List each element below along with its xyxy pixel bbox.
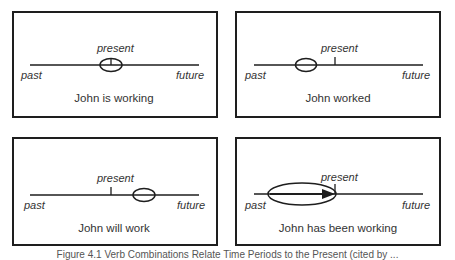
past-label: past: [245, 69, 266, 81]
sentence-present-perfect-progressive: John has been working: [279, 222, 397, 234]
present-label: present: [97, 42, 134, 54]
present-label: present: [321, 42, 358, 54]
future-label: future: [177, 199, 205, 211]
future-label: future: [402, 199, 430, 211]
future-label: future: [176, 69, 204, 81]
past-label: past: [21, 69, 42, 81]
future-label: future: [402, 69, 430, 81]
present-label: present: [97, 172, 134, 184]
sentence-simple-future: John will work: [78, 222, 150, 234]
past-label: past: [24, 199, 45, 211]
sentence-present-progressive: John is working: [74, 92, 153, 104]
sentence-simple-past: John worked: [305, 92, 370, 104]
present-label: present: [321, 171, 358, 183]
past-label: past: [245, 199, 266, 211]
figure-caption: Figure 4.1 Verb Combinations Relate Time…: [0, 249, 455, 260]
